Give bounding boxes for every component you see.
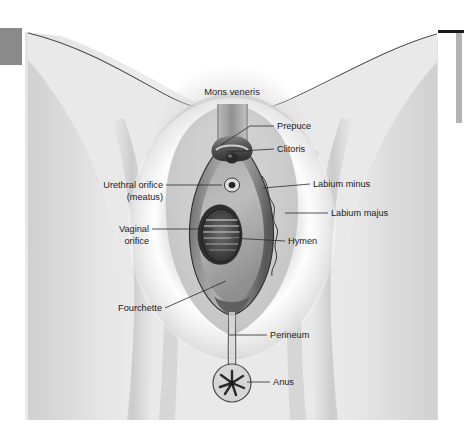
hymen [202,209,240,262]
top-right-rule [435,30,464,33]
diagram-page: Mons veneris Prepuce Clitoris Urethral o… [0,0,464,439]
anatomy-figure: Mons veneris Prepuce Clitoris Urethral o… [0,0,464,439]
urethral-orifice-inner [229,182,236,188]
clitoris-glans [226,152,238,163]
anus-center [229,380,234,385]
label-urethral-orifice: Urethral orifice [103,180,163,190]
label-urethral-orifice-line2: (meatus) [127,192,163,202]
label-vaginal-orifice: Vaginal [119,224,149,234]
label-vaginal-orifice-line2: orifice [124,236,149,246]
label-fourchette: Fourchette [118,303,162,313]
label-perineum: Perineum [270,330,310,340]
gray-corner-block [0,28,22,65]
label-labium-majus: Labium majus [331,208,389,218]
label-labium-minus: Labium minus [313,179,371,189]
label-prepuce: Prepuce [277,121,311,131]
clitoris-glans-highlight [228,154,232,158]
label-clitoris: Clitoris [277,144,305,154]
right-side-bar [456,33,462,123]
label-hymen: Hymen [288,236,317,246]
label-anus: Anus [273,377,294,387]
label-mons-veneris: Mons veneris [204,86,260,97]
